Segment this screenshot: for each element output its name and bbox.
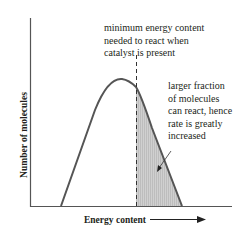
fraction-annotation-line-2: of molecules (168, 93, 232, 106)
threshold-annotation-line-3: catalyst is present (104, 47, 204, 60)
fraction-annotation: larger fraction of molecules can react, … (168, 80, 232, 143)
x-axis-label: Energy content (84, 214, 146, 227)
threshold-annotation-line-2: needed to react when (104, 35, 204, 48)
fraction-annotation-line-4: rate is greatly (168, 118, 232, 131)
fraction-annotation-line-5: increased (168, 130, 232, 143)
fraction-annotation-line-1: larger fraction (168, 80, 232, 93)
energy-arrow-head (197, 216, 206, 223)
y-axis-label: Number of molecules (19, 75, 29, 195)
threshold-annotation: minimum energy content needed to react w… (104, 22, 204, 60)
threshold-annotation-line-1: minimum energy content (104, 22, 204, 35)
fraction-annotation-line-3: can react, hence (168, 105, 232, 118)
